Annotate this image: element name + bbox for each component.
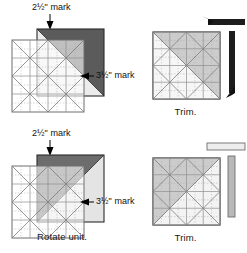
panel-bottom-left: 2½" mark — [0, 127, 124, 253]
trim-bar-top-icon-light — [207, 143, 245, 150]
ruler-overlay-bottom-right — [153, 158, 220, 225]
panel-bottom-right: Trim. — [124, 127, 247, 253]
caption-trim-bottom: Trim. — [124, 232, 247, 243]
leader-2-5-mark — [47, 14, 54, 30]
panel-top-right: Trim. — [124, 0, 247, 127]
leader-2-5-mark-b — [47, 140, 54, 156]
panel-top-left-graphics — [0, 0, 124, 127]
trim-bar-right-icon-light — [228, 156, 235, 217]
panel-top-left: 2½" mark — [0, 0, 124, 127]
ruler-overlay-top-left — [12, 40, 84, 112]
caption-rotate-unit: Rotate unit. — [0, 231, 124, 242]
ruler-overlay-top-right — [153, 32, 220, 99]
quilting-trim-diagram: 2½" mark — [0, 0, 247, 253]
trim-bar-top-icon — [202, 16, 245, 25]
caption-trim-top: Trim. — [124, 106, 247, 117]
ruler-overlay-bottom-left — [12, 166, 84, 238]
trim-bar-right-icon — [226, 31, 235, 98]
